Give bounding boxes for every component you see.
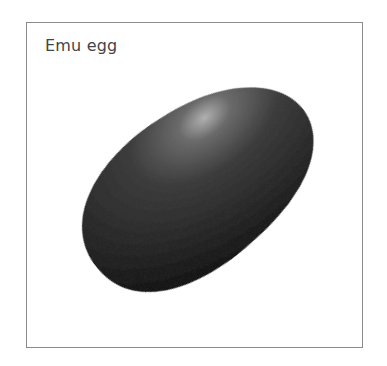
- egg-shape: [48, 45, 349, 328]
- emu-egg-image: [0, 0, 387, 366]
- egg-illustration: [0, 0, 387, 366]
